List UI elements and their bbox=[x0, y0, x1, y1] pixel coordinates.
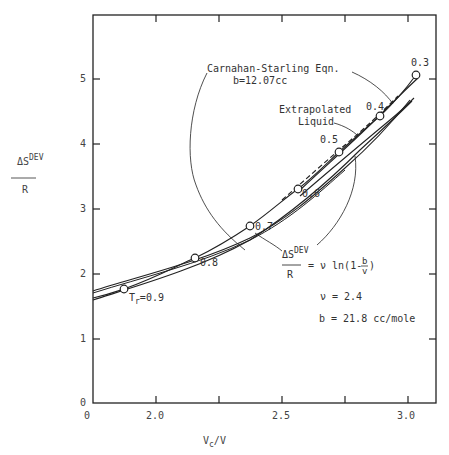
x-tick-origin: 0 bbox=[84, 410, 90, 421]
nu-value: ν = 2.4 bbox=[320, 291, 362, 302]
label-tr-0.6: 0.6 bbox=[302, 188, 320, 199]
svg-text:ΔSDEV: ΔSDEV bbox=[17, 153, 44, 167]
svg-text:): ) bbox=[369, 260, 375, 271]
equation-block: ΔSDEV R = ν ln(1- b v ) bbox=[282, 246, 375, 280]
svg-text:v: v bbox=[362, 266, 367, 276]
y-ticks-right bbox=[429, 79, 436, 339]
x-tick-2-5: 2.5 bbox=[272, 410, 290, 421]
point-tr-0.7 bbox=[246, 222, 254, 230]
label-tr-0.8: 0.8 bbox=[200, 257, 218, 268]
label-tr-0.5: 0.5 bbox=[320, 134, 338, 145]
eq-leader-left bbox=[255, 233, 282, 251]
y-axis-label: ΔSDEV R bbox=[11, 153, 44, 195]
point-tr-0.4 bbox=[376, 112, 384, 120]
svg-text:b: b bbox=[362, 256, 367, 266]
y-tick-4: 4 bbox=[80, 138, 86, 149]
svg-text:= ν ln(1-: = ν ln(1- bbox=[308, 260, 362, 271]
y-tick-5: 5 bbox=[80, 73, 86, 84]
cs-label-line2: b=12.07cc bbox=[233, 75, 287, 86]
label-tr-0.7: 0.7 bbox=[255, 221, 273, 232]
point-tr-0.5 bbox=[335, 148, 343, 156]
point-tr-0.8 bbox=[191, 254, 199, 262]
point-tr-0.6 bbox=[294, 185, 302, 193]
svg-text:Vc/V: Vc/V bbox=[203, 435, 226, 449]
x-tick-2-0: 2.0 bbox=[146, 410, 164, 421]
svg-text:R: R bbox=[287, 269, 294, 280]
point-tr-0.3 bbox=[412, 71, 420, 79]
y-tick-2: 2 bbox=[80, 268, 86, 279]
svg-text:ΔSDEV: ΔSDEV bbox=[282, 246, 309, 260]
label-tr-0.3: 0.3 bbox=[411, 57, 429, 68]
cs-leader-left bbox=[190, 73, 245, 250]
label-tr-0.4: 0.4 bbox=[366, 101, 384, 112]
x-ticks-bottom bbox=[156, 396, 408, 403]
x-axis-label: Vc/V bbox=[203, 435, 226, 449]
x-ticks-top bbox=[156, 15, 408, 22]
b-value: b = 21.8 cc/mole bbox=[319, 313, 415, 324]
ext-label-line2: Liquid bbox=[298, 116, 334, 127]
cs-leader-right bbox=[352, 72, 393, 104]
svg-text:R: R bbox=[22, 184, 29, 195]
label-tr-0.9: Tr=0.9 bbox=[129, 292, 164, 306]
point-tr-0.9 bbox=[120, 285, 128, 293]
y-tick-0: 0 bbox=[80, 397, 86, 408]
x-tick-3-0: 3.0 bbox=[397, 410, 415, 421]
chart-canvas: 0 1 2 3 4 5 0 2.0 2.5 3.0 ΔSDEV R Vc/V T… bbox=[0, 0, 449, 455]
ext-label-line1: Extrapolated bbox=[279, 104, 351, 115]
y-tick-1: 1 bbox=[80, 333, 86, 344]
cs-label-line1: Carnahan-Starling Eqn. bbox=[207, 63, 339, 74]
y-tick-3: 3 bbox=[80, 203, 86, 214]
